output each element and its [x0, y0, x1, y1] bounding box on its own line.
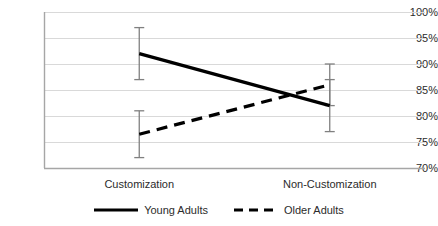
legend-entry: Young Adults [94, 204, 208, 216]
legend-swatch [94, 204, 138, 216]
legend-entry: Older Adults [234, 204, 344, 216]
legend-swatch [234, 204, 278, 216]
line-chart: 70%75%80%85%90%95%100% CustomizationNon-… [0, 0, 438, 226]
x-axis-tick-label: Customization [104, 178, 174, 190]
legend-label: Older Adults [284, 204, 344, 216]
x-axis-tick-label: Non-Customization [283, 178, 377, 190]
series-line-older-adults [139, 85, 330, 134]
legend-label: Young Adults [144, 204, 208, 216]
chart-legend: Young AdultsOlder Adults [0, 204, 438, 216]
series-line-young-adults [139, 54, 330, 106]
plot-area [0, 0, 438, 226]
